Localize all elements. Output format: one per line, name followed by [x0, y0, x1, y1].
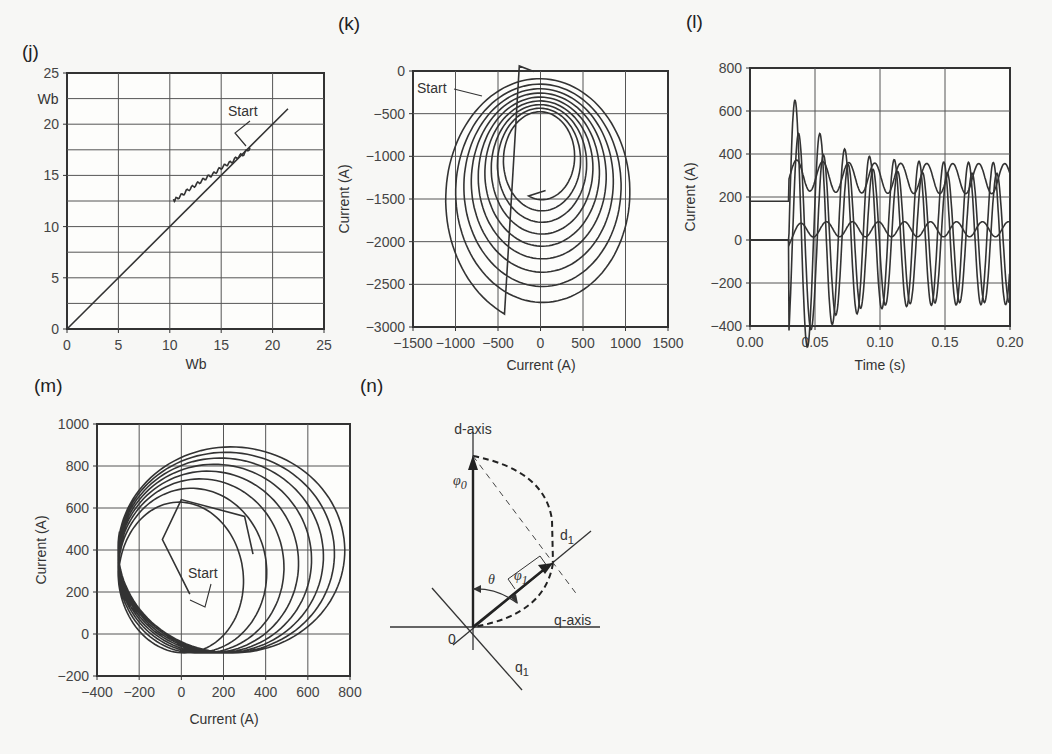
k-x-axis-label: Current (A)	[506, 357, 575, 373]
x-tick-label: 0	[177, 684, 185, 700]
x-tick-label: 10	[162, 337, 178, 353]
x-tick-label: 200	[212, 684, 236, 700]
y-tick-label: −2000	[366, 234, 406, 250]
x-tick-label: 0.00	[736, 334, 763, 350]
x-tick-label: 0.20	[996, 334, 1023, 350]
q1-label-sub: 1	[523, 666, 529, 678]
l-x-axis-label: Time (s)	[855, 357, 906, 373]
x-tick-label: 0.10	[866, 334, 893, 350]
x-tick-label: 25	[316, 337, 332, 353]
d-axis-label: d-axis	[454, 421, 491, 437]
y-tick-label: 200	[66, 584, 90, 600]
y-tick-label: 0	[81, 626, 89, 642]
start-label: Start	[228, 103, 258, 119]
phi0-label-sub: 0	[461, 478, 467, 492]
y-tick-label: 0	[734, 232, 742, 248]
k-y-axis-label: Current (A)	[336, 164, 352, 233]
y-tick-label: −1000	[366, 148, 406, 164]
origin-label: 0	[448, 631, 456, 647]
x-tick-label: 15	[213, 337, 229, 353]
panel-label-l: (l)	[686, 11, 703, 32]
m-x-axis-label: Current (A)	[189, 711, 258, 727]
y-tick-label: 400	[719, 146, 743, 162]
q1-label: q1	[515, 659, 529, 678]
d1-label-sub: 1	[568, 534, 574, 546]
x-tick-label: 0.15	[931, 334, 958, 350]
d1-label-main: d	[560, 527, 568, 543]
l-y-axis-label: Current (A)	[682, 162, 698, 231]
x-tick-label: −1500	[393, 335, 433, 351]
x-tick-label: 20	[265, 337, 281, 353]
phi1-label: φ1	[514, 568, 528, 587]
panel-label-k: (k)	[338, 13, 360, 34]
q1-axis-line	[432, 588, 522, 690]
d1-label: d1	[560, 527, 574, 546]
x-tick-label: 800	[338, 684, 362, 700]
x-tick-label: −200	[123, 684, 155, 700]
y-tick-label: 5	[51, 270, 59, 286]
y-tick-label: 400	[66, 542, 90, 558]
start-label: Start	[188, 565, 218, 581]
chart-m-current-spiral: −400−200020040060080010008006004002000−2…	[57, 416, 361, 700]
x-tick-label: 1500	[652, 335, 683, 351]
y-tick-label: 15	[43, 167, 59, 183]
q-axis-label: q-axis	[554, 612, 591, 628]
chart-j-flux-plot: 05101520250510152025Start	[43, 65, 332, 353]
y-tick-label: 10	[43, 219, 59, 235]
m-y-axis-label: Current (A)	[33, 515, 49, 584]
y-tick-label: 600	[66, 500, 90, 516]
panel-label-n: (n)	[360, 375, 383, 396]
chart-l-current-time: 0.000.050.100.150.208006004002000−200−40…	[710, 60, 1023, 350]
y-tick-label: 200	[719, 189, 743, 205]
diagram-n-vector: d-axis q-axis d1 q1 φ0 φ1 θ 0	[390, 421, 600, 690]
x-tick-label: 600	[296, 684, 320, 700]
x-tick-label: −500	[482, 335, 514, 351]
y-tick-label: −2500	[366, 276, 406, 292]
y-tick-label: −3000	[366, 319, 406, 335]
y-tick-label: 0	[51, 321, 59, 337]
y-tick-label: −400	[710, 318, 742, 334]
theta-arrowhead-icon	[473, 585, 481, 593]
y-tick-label: 25	[43, 65, 59, 81]
x-tick-label: 0	[63, 337, 71, 353]
x-tick-label: 5	[115, 337, 123, 353]
phi1-label-sub: 1	[522, 573, 528, 587]
theta-label: θ	[488, 572, 495, 587]
y-tick-label: −500	[373, 106, 405, 122]
j-x-axis-label: Wb	[186, 356, 207, 372]
x-tick-label: 1000	[610, 335, 641, 351]
x-tick-label: 0	[537, 335, 545, 351]
panel-label-j: (j)	[22, 41, 39, 62]
y-tick-label: 800	[719, 60, 743, 76]
y-tick-label: −200	[710, 275, 742, 291]
y-tick-label: 20	[43, 116, 59, 132]
y-tick-label: 1000	[58, 416, 89, 432]
y-tick-label: −1500	[366, 191, 406, 207]
figure-canvas: (j) (k) (l) (m) (n) 05101520250510152025…	[0, 0, 1052, 754]
start-label: Start	[417, 80, 447, 96]
j-y-axis-label: Wb	[38, 91, 59, 107]
x-tick-label: −400	[81, 684, 113, 700]
x-tick-label: 500	[571, 335, 595, 351]
y-tick-label: 800	[66, 458, 90, 474]
y-tick-label: 600	[719, 103, 743, 119]
panel-label-m: (m)	[34, 375, 62, 396]
phi0-label: φ0	[453, 473, 467, 492]
x-tick-label: −1000	[436, 335, 476, 351]
y-tick-label: −200	[57, 668, 89, 684]
x-tick-label: 400	[254, 684, 278, 700]
y-tick-label: 0	[397, 63, 405, 79]
chart-k-current-spiral: −1500−1000−5000500100015000−500−1000−150…	[366, 63, 684, 351]
q1-label-main: q	[515, 659, 523, 675]
